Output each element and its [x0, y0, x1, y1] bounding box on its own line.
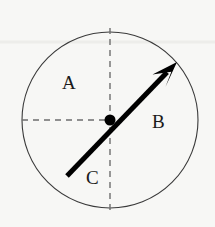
- diagram-svg: [0, 0, 215, 227]
- region-label-b: B: [152, 112, 165, 131]
- center-point-dot: [105, 115, 116, 126]
- region-label-c: C: [86, 168, 99, 187]
- figure-canvas: A B C: [0, 0, 215, 227]
- region-label-a: A: [62, 73, 76, 92]
